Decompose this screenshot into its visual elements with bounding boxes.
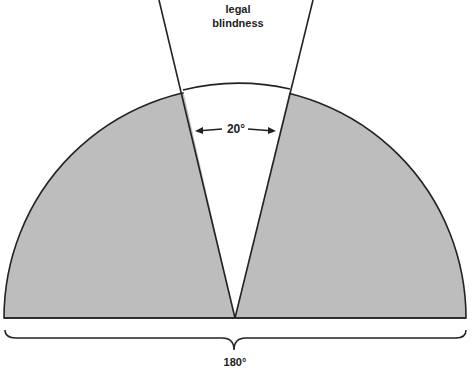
span-brace <box>5 330 466 350</box>
label-line-1: legal <box>198 2 278 16</box>
visual-field-diagram: legal blindness 20° 180° <box>0 0 476 368</box>
span-label: 180° <box>214 355 256 368</box>
label-line-2: blindness <box>198 16 278 30</box>
diagram-graphic <box>0 0 476 368</box>
legal-blindness-label: legal blindness <box>198 2 278 30</box>
angle-label: 20° <box>221 122 251 136</box>
